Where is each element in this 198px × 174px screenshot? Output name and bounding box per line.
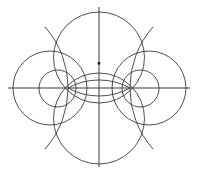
geometric-construction-diagram — [0, 0, 198, 174]
center-point — [98, 62, 100, 64]
